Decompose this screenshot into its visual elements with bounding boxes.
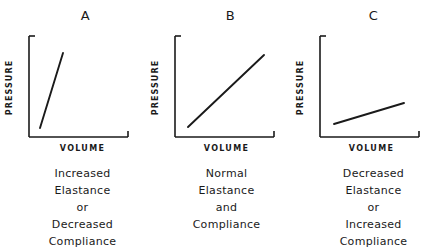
caption-line: Compliance: [301, 233, 436, 250]
y-axis-label-text: PRESSURE: [6, 59, 15, 115]
panel-caption-a: Increased Elastance or Decreased Complia…: [0, 165, 155, 250]
caption-line: Elastance: [154, 182, 299, 199]
caption-line: Compliance: [154, 216, 299, 233]
caption-line: Increased: [10, 165, 155, 182]
panel-letter-a: A: [0, 8, 158, 23]
panel-b: B PRESSURE VOLUME Normal Elastance and C…: [146, 0, 291, 252]
axes-a: [29, 36, 128, 137]
panel-caption-b: Normal Elastance and Compliance: [146, 165, 299, 233]
x-axis-label-a: VOLUME: [0, 144, 155, 154]
x-axis-label-b: VOLUME: [146, 144, 299, 154]
y-axis-label-text: PRESSURE: [297, 59, 306, 115]
caption-line: Compliance: [10, 233, 155, 250]
panel-a: A PRESSURE VOLUME Increased Elastance or…: [0, 0, 145, 252]
axes-c: [320, 36, 419, 137]
curve-b: [188, 55, 264, 127]
caption-line: Elastance: [301, 182, 436, 199]
caption-line: Normal: [154, 165, 299, 182]
x-axis-label-c: VOLUME: [291, 144, 436, 154]
y-axis-label-text: PRESSURE: [152, 59, 161, 115]
panel-c: C PRESSURE VOLUME Decreased Elastance or…: [291, 0, 436, 252]
panel-letter-c: C: [291, 8, 436, 23]
caption-line: Decreased: [10, 216, 155, 233]
caption-line: Increased: [301, 216, 436, 233]
caption-line: Decreased: [301, 165, 436, 182]
caption-line: Elastance: [10, 182, 155, 199]
axes-b: [175, 36, 274, 137]
caption-line: or: [10, 199, 155, 216]
caption-line: and: [154, 199, 299, 216]
pressure-volume-figure: A PRESSURE VOLUME Increased Elastance or…: [0, 0, 436, 252]
panel-letter-b: B: [146, 8, 303, 23]
plot-area-b: [167, 33, 277, 141]
caption-line: or: [301, 199, 436, 216]
curve-c: [334, 103, 404, 124]
curve-a: [40, 53, 63, 128]
plot-area-a: [21, 33, 131, 141]
y-axis-label-c: PRESSURE: [293, 42, 309, 132]
plot-area-c: [312, 33, 422, 141]
y-axis-label-a: PRESSURE: [2, 42, 18, 132]
panel-caption-c: Decreased Elastance or Increased Complia…: [291, 165, 436, 250]
y-axis-label-b: PRESSURE: [148, 42, 164, 132]
